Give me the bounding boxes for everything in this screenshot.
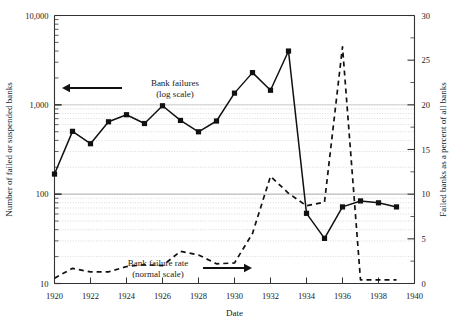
bank-failures-annotation-line2: (log scale) [156,89,194,99]
y-axis-tick-label: 10,000 [25,11,48,21]
data-point-marker [196,129,201,134]
y-axis-right-title: Failed banks as a percent of all banks [438,82,448,217]
data-point-marker [376,200,381,205]
bank-failures-chart-figure: 101001,00010,000051015202530192019221924… [0,0,455,322]
data-point-marker [268,88,273,93]
y2-axis-tick-label: 0 [422,279,426,289]
data-point-marker [88,141,93,146]
y2-axis-tick-label: 10 [422,189,431,199]
series-line-2 [55,47,397,280]
bank-failure-rate-annotation-line2: (normal scale) [132,269,184,279]
bank-failure-rate-arrow-head [244,264,252,272]
chart-canvas: 101001,00010,000051015202530192019221924… [0,0,455,322]
x-axis-tick-label: 1926 [154,291,171,301]
data-point-marker [394,204,399,209]
x-axis-tick-label: 1928 [190,291,207,301]
bank-failures-arrow-head [62,84,70,92]
bank-failure-rate-annotation-line1: Bank failure rate [128,258,188,268]
y-axis-tick-label: 1,000 [29,100,48,110]
y-axis-left-title: Number of failed or suspended banks [4,82,14,217]
x-axis-tick-label: 1920 [46,291,63,301]
data-point-marker [124,112,129,117]
data-point-marker [178,118,183,123]
x-axis-tick-label: 1932 [262,291,279,301]
data-point-marker [322,236,327,241]
data-point-marker [160,103,165,108]
y-axis-right-ticks [408,16,415,284]
y-axis-tick-label: 10 [40,279,49,289]
x-axis-tick-label: 1930 [226,291,243,301]
grid-lines [55,105,415,284]
data-point-marker [358,198,363,203]
y2-axis-tick-label: 25 [422,55,431,65]
data-point-marker [286,48,291,53]
y-axis-tick-label: 100 [36,189,49,199]
data-point-marker [70,129,75,134]
data-point-marker [304,211,309,216]
y2-axis-tick-label: 30 [422,11,431,21]
x-axis-tick-label: 1936 [334,291,351,301]
data-point-marker [142,121,147,126]
data-point-marker [232,91,237,96]
data-series-group [52,47,399,280]
y2-axis-tick-label: 20 [422,100,431,110]
data-point-marker [250,70,255,75]
x-axis-tick-label: 1938 [370,291,387,301]
data-point-marker [340,204,345,209]
x-axis-tick-label: 1922 [82,291,99,301]
y2-axis-tick-label: 15 [422,145,431,155]
data-point-marker [214,118,219,123]
x-axis-title: Date [226,308,243,318]
x-axis-tick-label: 1934 [298,291,316,301]
series-line-1 [55,51,397,238]
y-axis-left-ticks [55,16,62,284]
bank-failures-annotation-line1: Bank failures [151,78,200,88]
x-axis-tick-label: 1924 [118,291,136,301]
x-axis-tick-label: 1940 [406,291,423,301]
y2-axis-tick-label: 5 [422,234,426,244]
data-point-marker [52,171,57,176]
data-point-marker [106,119,111,124]
